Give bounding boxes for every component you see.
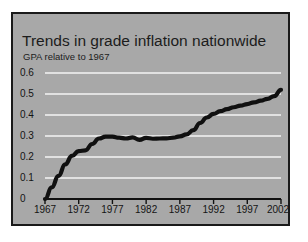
y-tick-label-0.6: 0.6	[20, 67, 34, 78]
y-tick-label-0.3: 0.3	[20, 130, 34, 141]
x-tick-label-1972: 1972	[68, 204, 91, 215]
y-tick-label-0.2: 0.2	[20, 151, 34, 162]
y-tick-label-0.5: 0.5	[20, 88, 34, 99]
x-axis-labels: 1967 1972 1977 1982 1987 1992 1997 2002	[34, 204, 288, 215]
x-tick-label-1977: 1977	[101, 204, 124, 215]
y-tick-label-0: 0	[20, 193, 26, 204]
x-tick-label-1967: 1967	[34, 204, 57, 215]
x-tick-label-1982: 1982	[135, 204, 158, 215]
chart-title: Trends in grade inflation nationwide	[22, 32, 266, 49]
gridlines	[45, 73, 281, 178]
y-axis-labels: 0.6 0.5 0.4 0.3 0.2 0.1 0	[20, 67, 34, 204]
chart-subtitle: GPA relative to 1967	[23, 51, 109, 62]
y-tick-label-0.1: 0.1	[20, 172, 34, 183]
data-line-gpa-relative-to-1967	[45, 90, 281, 199]
chart-plot-surface: Trends in grade inflation nationwide GPA…	[13, 14, 288, 224]
x-tick-label-1987: 1987	[169, 204, 192, 215]
x-tick-label-2002: 2002	[267, 204, 288, 215]
x-tick-label-1992: 1992	[202, 204, 225, 215]
x-tick-label-1997: 1997	[236, 204, 259, 215]
chart-frame: Trends in grade inflation nationwide GPA…	[11, 12, 290, 226]
chart-figure: Trends in grade inflation nationwide GPA…	[0, 0, 308, 242]
y-tick-label-0.4: 0.4	[20, 109, 34, 120]
